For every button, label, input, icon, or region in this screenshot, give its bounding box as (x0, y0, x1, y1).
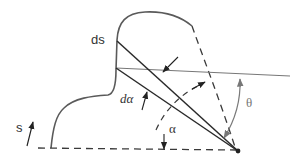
alpha-arrow-upper (192, 82, 205, 89)
label-s: s (16, 120, 23, 135)
baseline-dashed (38, 148, 236, 150)
boundary-dashed (192, 26, 236, 150)
label-theta: θ (246, 95, 252, 110)
label-ds: ds (91, 32, 105, 47)
s-arrow (27, 122, 33, 146)
d-alpha-arrow-lower (142, 92, 147, 110)
label-alpha: α (169, 121, 176, 136)
diagram-canvas: ds s dα α θ (0, 0, 304, 162)
horizontal-reference-line (116, 68, 290, 76)
d-alpha-arrow-upper (163, 57, 178, 72)
arc-theta (224, 79, 240, 138)
label-d-alpha: dα (120, 91, 135, 106)
ray-lower (116, 68, 238, 151)
observer-point (236, 149, 241, 154)
